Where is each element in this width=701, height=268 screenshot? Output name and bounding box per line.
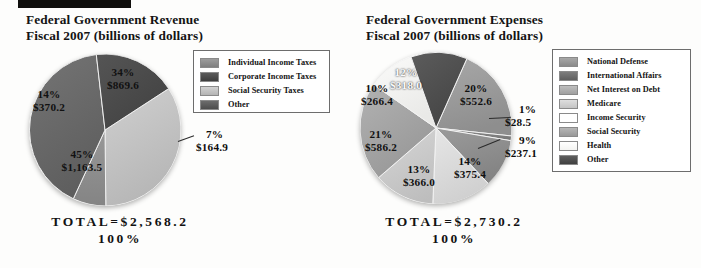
revenue-chart-title: Federal Government Revenue Fiscal 2007 (… bbox=[26, 12, 203, 43]
expenses-chart-panel: Federal Government Expenses Fiscal 2007 … bbox=[352, 0, 701, 268]
slice-value: $370.2 bbox=[20, 101, 78, 114]
slice-value: $586.2 bbox=[350, 141, 412, 154]
slice-value: $869.6 bbox=[92, 79, 154, 92]
expenses-slice-label-national-defense: 20% $552.6 bbox=[445, 82, 507, 107]
slice-percent: 12% bbox=[375, 66, 437, 79]
expenses-slice-label-international-affairs: 1% $28.5 bbox=[505, 103, 559, 128]
revenue-total-percent: 100% bbox=[10, 230, 230, 247]
slice-percent: 14% bbox=[439, 155, 501, 168]
revenue-slice-label-other: 7% $164.9 bbox=[196, 128, 252, 153]
legend-swatch-icon bbox=[559, 85, 578, 95]
slice-percent: 10% bbox=[348, 82, 406, 95]
expenses-chart-title: Federal Government Expenses Fiscal 2007 … bbox=[366, 12, 543, 43]
slice-percent: 1% bbox=[505, 103, 559, 116]
expenses-legend: National Defense International Affairs N… bbox=[552, 49, 691, 172]
expenses-slice-label-health: 10% $266.4 bbox=[348, 82, 406, 107]
legend-item-label: Medicare bbox=[587, 99, 621, 108]
legend-item-net-interest-on-debt[interactable]: Net Interest on Debt bbox=[559, 83, 683, 96]
revenue-slice-label-social-security: 34% $869.6 bbox=[92, 66, 154, 91]
legend-item-label: Corporate Income Taxes bbox=[228, 72, 316, 81]
slice-percent: 21% bbox=[350, 128, 412, 141]
legend-item-other[interactable]: Other bbox=[200, 98, 322, 111]
expenses-total-percent: 100% bbox=[344, 230, 564, 247]
legend-item-corporate-income-taxes[interactable]: Corporate Income Taxes bbox=[200, 70, 322, 83]
legend-swatch-icon bbox=[200, 72, 219, 82]
slice-percent: 45% bbox=[43, 148, 121, 161]
revenue-total-amount: TOTAL=$2,568.2 bbox=[51, 214, 188, 229]
legend-swatch-icon bbox=[559, 57, 578, 67]
slice-value: $552.6 bbox=[445, 95, 507, 108]
slice-percent: 9% bbox=[505, 134, 559, 147]
legend-swatch-icon bbox=[559, 99, 578, 109]
legend-swatch-icon bbox=[559, 155, 578, 165]
slice-value: $1,163.5 bbox=[43, 161, 121, 174]
legend-item-label: Social Security Taxes bbox=[228, 86, 304, 95]
slice-value: $164.9 bbox=[196, 141, 252, 154]
legend-item-income-security[interactable]: Income Security bbox=[559, 111, 683, 124]
slice-percent: 7% bbox=[196, 128, 252, 141]
revenue-slice-label-corporate: 14% $370.2 bbox=[20, 88, 78, 113]
revenue-title-line2: Fiscal 2007 (billions of dollars) bbox=[26, 28, 203, 44]
slice-value: $28.5 bbox=[505, 116, 559, 129]
slice-value: $237.1 bbox=[505, 147, 559, 160]
expenses-total-amount: TOTAL=$2,730.2 bbox=[385, 214, 522, 229]
legend-swatch-icon bbox=[559, 71, 578, 81]
legend-swatch-icon bbox=[200, 100, 219, 110]
expenses-title-line2: Fiscal 2007 (billions of dollars) bbox=[366, 28, 543, 44]
expenses-totals: TOTAL=$2,730.2 100% bbox=[344, 213, 564, 247]
revenue-slice-label-individual: 45% $1,163.5 bbox=[43, 148, 121, 173]
legend-item-label: International Affairs bbox=[587, 71, 662, 80]
slice-percent: 20% bbox=[445, 82, 507, 95]
expenses-slice-label-medicare: 14% $375.4 bbox=[439, 155, 501, 180]
revenue-legend: Individual Income Taxes Corporate Income… bbox=[193, 50, 330, 113]
legend-swatch-icon bbox=[559, 141, 578, 151]
expenses-title-line1: Federal Government Expenses bbox=[366, 12, 543, 27]
legend-item-label: Income Security bbox=[587, 113, 646, 122]
slice-value: $266.4 bbox=[348, 95, 406, 108]
legend-item-international-affairs[interactable]: International Affairs bbox=[559, 69, 683, 82]
legend-swatch-icon bbox=[200, 58, 219, 68]
slice-percent: 34% bbox=[92, 66, 154, 79]
legend-item-social-security-taxes[interactable]: Social Security Taxes bbox=[200, 84, 322, 97]
legend-item-other[interactable]: Other bbox=[559, 153, 683, 166]
revenue-chart-panel: Federal Government Revenue Fiscal 2007 (… bbox=[0, 0, 340, 268]
legend-item-label: Other bbox=[228, 100, 249, 109]
legend-item-label: Individual Income Taxes bbox=[228, 58, 316, 67]
legend-swatch-icon bbox=[559, 127, 578, 137]
legend-item-health[interactable]: Health bbox=[559, 139, 683, 152]
slice-percent: 14% bbox=[20, 88, 78, 101]
legend-swatch-icon bbox=[559, 113, 578, 123]
slice-value: $375.4 bbox=[439, 168, 501, 181]
legend-swatch-icon bbox=[200, 86, 219, 96]
legend-item-individual-income-taxes[interactable]: Individual Income Taxes bbox=[200, 56, 322, 69]
legend-item-label: Health bbox=[587, 141, 611, 150]
legend-item-label: National Defense bbox=[587, 57, 648, 66]
expenses-slice-label-social-security: 21% $586.2 bbox=[350, 128, 412, 153]
revenue-totals: TOTAL=$2,568.2 100% bbox=[10, 213, 230, 247]
legend-item-label: Net Interest on Debt bbox=[587, 85, 660, 94]
legend-item-label: Social Security bbox=[587, 127, 641, 136]
expenses-slice-label-net-interest: 9% $237.1 bbox=[505, 134, 559, 159]
revenue-title-line1: Federal Government Revenue bbox=[26, 12, 199, 27]
legend-item-social-security[interactable]: Social Security bbox=[559, 125, 683, 138]
legend-item-label: Other bbox=[587, 155, 608, 164]
legend-item-medicare[interactable]: Medicare bbox=[559, 97, 683, 110]
legend-item-national-defense[interactable]: National Defense bbox=[559, 55, 683, 68]
